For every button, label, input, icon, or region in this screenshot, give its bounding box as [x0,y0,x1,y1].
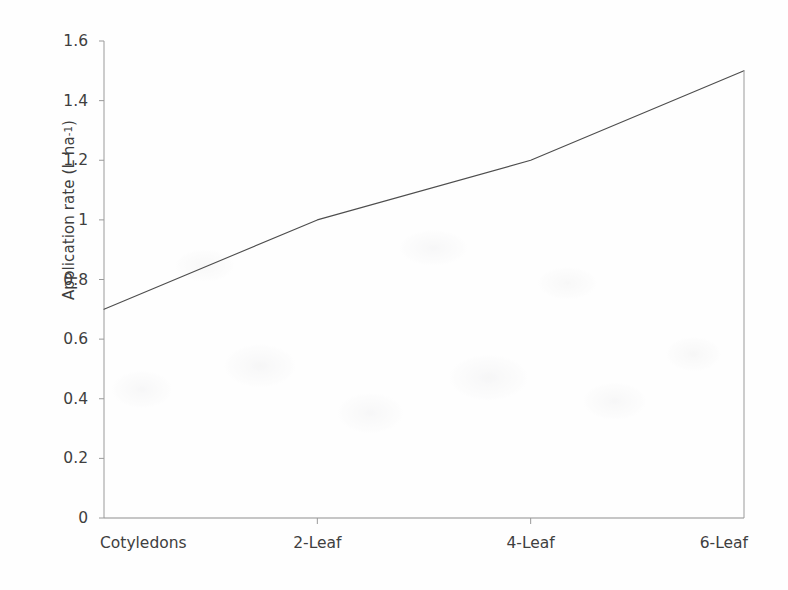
x-axis-tick-marks [317,518,530,524]
data-series-line [104,71,744,309]
chart-figure: Application rate (L ha-1) 00.20.40.60.81… [0,0,788,590]
y-axis-tick-marks [99,41,104,518]
axis-lines [104,41,744,518]
plot-area [0,0,788,590]
